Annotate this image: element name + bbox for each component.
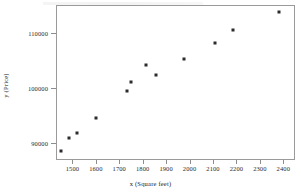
x-axis-tick bbox=[166, 160, 167, 164]
x-axis-tick-label: 1800 bbox=[136, 165, 149, 172]
data-point bbox=[182, 57, 185, 60]
x-axis-tick bbox=[236, 160, 237, 164]
x-axis-tick bbox=[213, 160, 214, 164]
y-axis-title: y (Price) bbox=[2, 61, 9, 111]
x-axis-tick-label: 2100 bbox=[206, 165, 219, 172]
data-point bbox=[278, 10, 281, 13]
plot-data-area bbox=[56, 5, 295, 160]
x-axis-tick bbox=[96, 160, 97, 164]
data-point bbox=[213, 42, 216, 45]
x-axis-tick bbox=[119, 160, 120, 164]
x-axis-tick-label: 2000 bbox=[183, 165, 196, 172]
data-point bbox=[76, 132, 79, 135]
data-point bbox=[232, 29, 235, 32]
x-axis-tick-label: 1700 bbox=[113, 165, 126, 172]
y-axis-tick-label: 110000 bbox=[28, 29, 48, 36]
x-axis-tick bbox=[72, 160, 73, 164]
y-axis-tick bbox=[51, 33, 56, 34]
x-axis-tick-label: 2400 bbox=[277, 165, 290, 172]
data-point bbox=[60, 150, 63, 153]
x-axis-tick-label: 2200 bbox=[230, 165, 243, 172]
data-point bbox=[95, 117, 98, 120]
y-axis-tick bbox=[51, 88, 56, 89]
x-axis-tick-label: 1900 bbox=[159, 165, 172, 172]
data-point bbox=[125, 90, 128, 93]
y-axis-tick-label: 90000 bbox=[31, 140, 48, 147]
x-axis-tick-label: 2300 bbox=[253, 165, 266, 172]
data-point bbox=[68, 136, 71, 139]
x-axis-title: x (Square feet) bbox=[0, 180, 301, 187]
scatter-plot-figure: 1500160017001800190020002100220023002400… bbox=[0, 0, 301, 196]
y-axis-tick bbox=[51, 143, 56, 144]
x-axis-tick-label: 1600 bbox=[89, 165, 102, 172]
x-axis-tick bbox=[190, 160, 191, 164]
x-axis-tick bbox=[260, 160, 261, 164]
x-axis-tick bbox=[283, 160, 284, 164]
x-axis-tick-label: 1500 bbox=[66, 165, 79, 172]
data-point bbox=[155, 73, 158, 76]
x-axis-tick bbox=[143, 160, 144, 164]
y-axis-tick-label: 100000 bbox=[28, 85, 48, 92]
data-point bbox=[129, 80, 132, 83]
data-point bbox=[144, 63, 147, 66]
